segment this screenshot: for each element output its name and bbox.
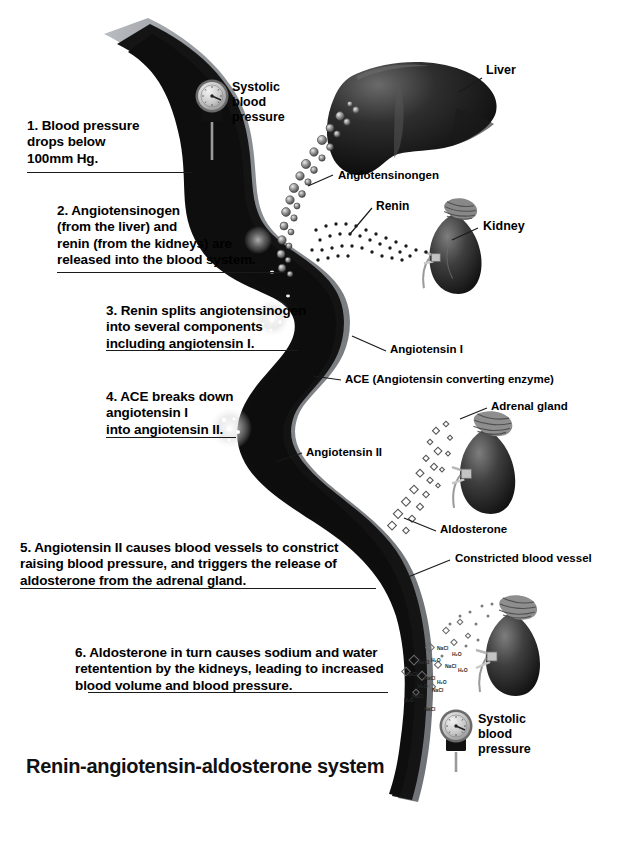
molecule-label-nacl: NaCl bbox=[432, 688, 443, 693]
diagram-title: Renin-angiotensin-aldosterone system bbox=[26, 755, 384, 778]
diagram-canvas: 1. Blood pressure drops below 100mm Hg. … bbox=[0, 0, 621, 846]
molecule-label-nacl: NaCl bbox=[437, 646, 448, 651]
molecule-label-water: H₂O bbox=[437, 680, 447, 685]
aldosterone-particles bbox=[388, 421, 453, 534]
kidney-illustration-top bbox=[423, 198, 481, 294]
leader-angiotensin-i bbox=[352, 336, 386, 351]
step-6-text: 6. Aldosterone in turn causes sodium and… bbox=[75, 645, 415, 694]
step-3-text: 3. Renin splits angiotensinogen into sev… bbox=[106, 303, 336, 352]
molecule-label-water: H₂O bbox=[431, 658, 441, 663]
liver-illustration bbox=[327, 62, 497, 175]
step-2-rule bbox=[57, 272, 285, 273]
callout-ace: ACE (Angiotensin converting enzyme) bbox=[345, 373, 554, 387]
kidney-illustration-bottom bbox=[476, 595, 540, 696]
systolic-gauge-bottom bbox=[440, 710, 473, 773]
molecule-label-nacl: NaCl bbox=[445, 664, 456, 669]
leader-aldosterone bbox=[404, 518, 436, 531]
molecule-label-water: H₂O bbox=[452, 652, 462, 657]
step-2-text: 2. Angiotensinogen (from the liver) and … bbox=[57, 203, 279, 269]
leader-constricted bbox=[408, 560, 450, 577]
step-1-text: 1. Blood pressure drops below 100mm Hg. bbox=[27, 118, 187, 167]
callout-systolic-bottom: Systolic blood pressure bbox=[478, 712, 531, 757]
callout-angiotensin-i: Angiotensin I bbox=[390, 343, 463, 357]
callout-kidney: Kidney bbox=[483, 219, 525, 234]
molecule-label-water: H₂O bbox=[404, 698, 414, 703]
callout-angiotensinogen: Angiotensinongen bbox=[338, 169, 439, 183]
step-1-rule bbox=[27, 172, 192, 173]
renin-particles bbox=[310, 222, 427, 261]
step-4-text: 4. ACE breaks down angiotensin I into an… bbox=[106, 389, 296, 438]
leader-renin bbox=[350, 208, 372, 234]
step-3-rule bbox=[106, 350, 298, 351]
callout-angiotensin-ii: Angiotensin II bbox=[306, 446, 382, 460]
callout-systolic-top: Systolic blood pressure bbox=[232, 80, 285, 125]
step-5-text: 5. Angiotensin II causes blood vessels t… bbox=[20, 540, 380, 589]
callout-aldosterone: Aldosterone bbox=[440, 523, 507, 537]
molecule-label-nacl: NaCl bbox=[424, 707, 435, 712]
molecule-label-nacl: NaCl bbox=[424, 676, 435, 681]
molecule-label-water: H₂O bbox=[418, 684, 428, 689]
molecule-label-water: H₂O bbox=[458, 668, 468, 673]
callout-renin: Renin bbox=[376, 199, 409, 213]
step-4-rule bbox=[106, 437, 236, 438]
callout-adrenal-gland: Adrenal gland bbox=[491, 400, 568, 414]
step-5-rule bbox=[20, 588, 376, 589]
molecule-label-nacl: NaCl bbox=[406, 672, 417, 677]
adrenal-kidney-illustration bbox=[452, 411, 515, 514]
leader-angiotensinogen bbox=[308, 175, 333, 186]
step-6-rule bbox=[88, 692, 388, 693]
callout-constricted-vessel: Constricted blood vessel bbox=[455, 552, 592, 566]
molecule-label-nacl: NaCl bbox=[418, 660, 429, 665]
callout-liver: Liver bbox=[486, 63, 516, 78]
